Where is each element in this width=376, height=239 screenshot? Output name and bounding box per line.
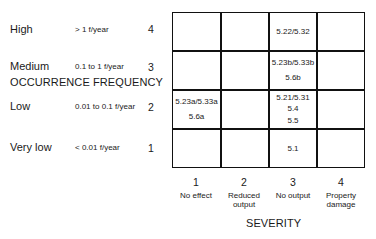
severity-num-4: 4 [316, 176, 366, 188]
freq-level-high: High [10, 23, 33, 35]
scenario-ref: 5.5 [287, 115, 298, 127]
severity-num-3: 3 [268, 176, 318, 188]
freq-num-3: 3 [148, 61, 154, 73]
severity-num-1: 1 [171, 176, 221, 188]
freq-rate-high: > 1 f/year [75, 25, 109, 34]
severity-num-2: 2 [219, 176, 269, 188]
freq-rate-very-low: < 0.01 f/year [75, 143, 120, 152]
scenario-ref: 5.4 [287, 103, 298, 115]
matrix-cell-f2-s1: 5.23a/5.33a 5.6a [173, 90, 220, 128]
freq-num-4: 4 [148, 23, 154, 35]
freq-num-1: 1 [148, 142, 154, 154]
scenario-ref: 5.22/5.32 [276, 24, 309, 39]
freq-level-very-low: Very low [10, 141, 52, 153]
severity-label-3: No output [268, 191, 318, 200]
scenario-ref: 5.1 [287, 141, 298, 156]
scenario-ref: 5.23a/5.33a [175, 94, 217, 109]
severity-label-2: Reduced output [219, 191, 269, 209]
freq-num-2: 2 [148, 101, 154, 113]
freq-rate-low: 0.01 to 0.1 f/year [75, 102, 135, 111]
scenario-ref: 5.6b [285, 70, 301, 85]
y-axis-title: OCCURRENCE FREQUENCY [10, 76, 163, 88]
freq-level-low: Low [10, 100, 30, 112]
scenario-ref: 5.23b/5.33b [272, 55, 314, 70]
risk-matrix: 5.22/5.32 5.23b/5.33b 5.6b 5.23a/5.33a 5… [172, 12, 365, 168]
scenario-ref: 5.6a [189, 109, 205, 124]
matrix-cell-f1-s3: 5.1 [269, 129, 317, 167]
freq-rate-medium: 0.1 to 1 f/year [75, 62, 124, 71]
scenario-ref: 5.21/5.31 [276, 92, 309, 104]
x-axis-title: SEVERITY [246, 217, 301, 229]
severity-label-1: No effect [171, 191, 221, 200]
severity-label-4: Property damage [316, 191, 366, 209]
matrix-cell-f2-s3: 5.21/5.31 5.4 5.5 [269, 90, 317, 128]
freq-level-medium: Medium [10, 60, 49, 72]
matrix-cell-f4-s3: 5.22/5.32 [269, 13, 317, 50]
matrix-cell-f3-s3: 5.23b/5.33b 5.6b [269, 51, 317, 89]
